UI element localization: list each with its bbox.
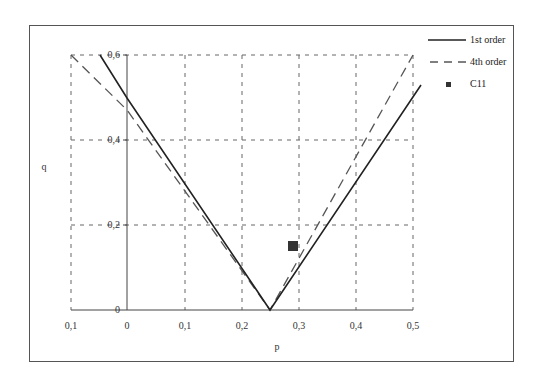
x-tick: 0,3 (293, 320, 306, 331)
x-tick-labels: 0,1 0 0,1 0,2 0,3 0,4 0,5 (65, 320, 420, 331)
legend-label: 1st order (470, 34, 506, 45)
x-tick: 0,5 (407, 320, 420, 331)
chart-svg: 0 0,2 0,4 0,6 0,1 0 0,1 0,2 0,3 0,4 0,5 … (0, 0, 535, 373)
y-tick: 0,2 (108, 219, 121, 230)
y-tick: 0 (115, 304, 120, 315)
x-tick: 0,2 (236, 320, 249, 331)
y-tick: 0,4 (108, 134, 121, 145)
x-tick: 0,4 (350, 320, 363, 331)
c11-marker (288, 241, 298, 251)
x-tick: 0,1 (65, 320, 78, 331)
legend-swatch-marker (446, 82, 451, 87)
legend-label: 4th order (470, 56, 507, 67)
legend-label: C11 (470, 78, 486, 89)
x-axis-label: p (275, 341, 280, 352)
series-1st-order (100, 55, 421, 310)
x-tick: 0 (125, 320, 130, 331)
legend: 1st order 4th order C11 (428, 34, 507, 89)
y-axis-label: q (42, 161, 47, 172)
x-tick: 0,1 (179, 320, 192, 331)
y-tick: 0,6 (108, 49, 121, 60)
y-tick-labels: 0 0,2 0,4 0,6 (108, 49, 121, 315)
